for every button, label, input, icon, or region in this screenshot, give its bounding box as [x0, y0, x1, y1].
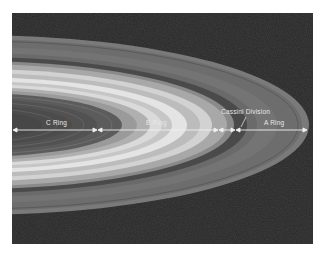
c-ring-label: C Ring — [46, 119, 67, 126]
b-ring-label: B Ring — [146, 119, 167, 126]
a-ring-label: A Ring — [264, 119, 284, 126]
saturn-rings-image: C Ring B Ring Cassini Division A Ring — [12, 13, 313, 244]
cassini-division-label: Cassini Division — [221, 108, 270, 115]
rings-illustration — [12, 13, 313, 244]
